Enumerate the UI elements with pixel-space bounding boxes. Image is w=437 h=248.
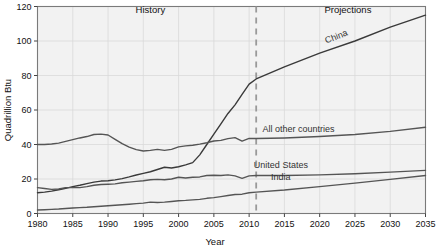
y-tick-label: 100 xyxy=(16,36,31,46)
y-tick-label: 120 xyxy=(16,2,31,12)
x-tick-label: 2030 xyxy=(380,219,400,229)
chart-canvas: 020406080100120 198019851990199520002005… xyxy=(0,0,437,248)
zone-label-projections: Projections xyxy=(324,4,371,15)
x-tick-label: 1990 xyxy=(98,219,118,229)
x-tick-label: 2020 xyxy=(310,219,330,229)
y-tick-label: 0 xyxy=(26,209,31,219)
x-tick-label: 2015 xyxy=(274,219,294,229)
y-tick-label: 80 xyxy=(21,71,31,81)
zone-label-history: History xyxy=(136,4,166,15)
x-tick-label: 1980 xyxy=(27,219,47,229)
y-tick-label: 60 xyxy=(21,105,31,115)
y-axis-ticks: 020406080100120 xyxy=(16,2,37,219)
x-tick-label: 2035 xyxy=(415,219,435,229)
series-label-all-other-countries: All other countries xyxy=(262,124,335,134)
x-tick-label: 2025 xyxy=(345,219,365,229)
x-tick-label: 2000 xyxy=(169,219,189,229)
series-label-united-states: United States xyxy=(254,160,309,170)
y-tick-label: 20 xyxy=(21,174,31,184)
energy-consumption-chart: 020406080100120 198019851990199520002005… xyxy=(0,0,437,248)
x-tick-label: 2005 xyxy=(204,219,224,229)
x-axis-ticks: 1980198519901995200020052010201520202025… xyxy=(27,214,435,229)
y-tick-label: 40 xyxy=(21,140,31,150)
x-axis-label: Year xyxy=(205,236,224,247)
x-tick-label: 1995 xyxy=(133,219,153,229)
x-tick-label: 2010 xyxy=(239,219,259,229)
series-label-india: India xyxy=(271,172,291,182)
y-axis-label: Quadrillion Btu xyxy=(2,79,13,141)
x-tick-label: 1985 xyxy=(63,219,83,229)
